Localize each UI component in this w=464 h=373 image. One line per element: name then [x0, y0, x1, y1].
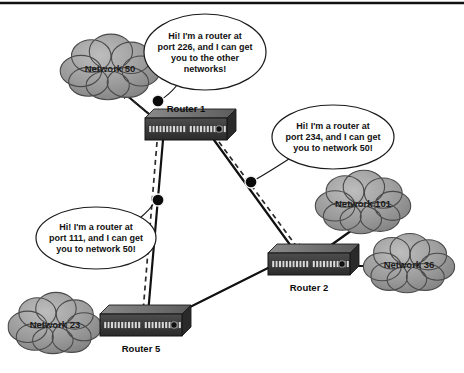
bubble-router1-port234-line-2: you to network 50!: [293, 143, 373, 153]
bubble-router1-port226-line-1: port 226, and I can get: [157, 42, 252, 52]
router-2-jack: [339, 261, 345, 267]
network-50-label: Network 50: [85, 63, 136, 74]
network-routing-diagram: Network 50Network 101Network 36Network 2…: [0, 0, 464, 373]
network-23-label: Network 23: [30, 319, 81, 330]
router-2-label: Router 2: [290, 282, 329, 293]
router-2-top: [268, 244, 359, 253]
router-5-top: [100, 305, 191, 314]
network-101-label: Network 101: [335, 198, 392, 209]
router-1[interactable]: Router 1: [145, 103, 236, 140]
router-5-jack: [171, 322, 177, 328]
bubble-router1-port226-line-3: networks!: [184, 64, 227, 74]
bubble-router1-port234-line-0: Hi! I'm a router at: [296, 121, 370, 131]
bubble-router1-port226-line-2: you to the other: [171, 53, 239, 63]
bubble-router5-port111-line-2: you to network 50!: [56, 244, 136, 254]
bubble-router5-port111-line-0: Hi! I'm a router at: [59, 222, 133, 232]
bubble-router1-port234-line-1: port 234, and I can get: [285, 132, 380, 142]
router-1-jack: [216, 126, 222, 132]
router-1-label: Router 1: [167, 103, 206, 114]
bubble-dot-port234: [245, 176, 257, 188]
network-36-label: Network 36: [384, 259, 435, 270]
bubble-router1-port226-line-0: Hi! I'm a router at: [168, 31, 242, 41]
bubble-dot-port111: [152, 194, 164, 206]
router-5-label: Router 5: [122, 343, 161, 354]
bubble-router5-port111-line-1: port 111, and I can get: [49, 233, 143, 243]
bubble-dot-port226: [152, 95, 164, 107]
